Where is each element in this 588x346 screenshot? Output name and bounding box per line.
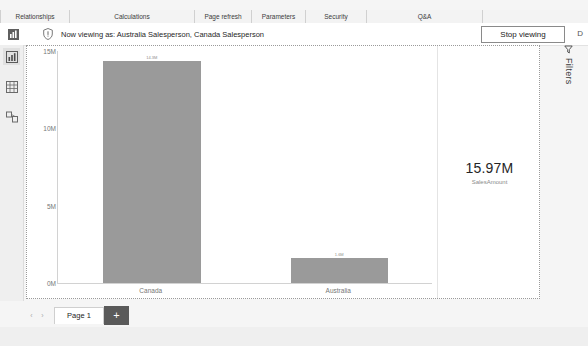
page-prev-button[interactable]: ‹	[26, 307, 37, 323]
add-page-button[interactable]: +	[104, 306, 129, 325]
view-as-banner: Now viewing as: Australia Salesperson, C…	[0, 23, 588, 46]
ribbon-group-page-refresh[interactable]: Page refresh	[195, 10, 252, 23]
bar-australia[interactable]	[291, 258, 389, 283]
page-next-button[interactable]: ›	[37, 307, 48, 323]
x-axis-tick-label: Australia	[326, 287, 351, 294]
bar-chart-visual[interactable]: 0M5M10M15M14.3M1.6M CanadaAustralia	[27, 46, 438, 298]
page-tab-bar: ‹ › Page 1 +	[26, 303, 540, 327]
filters-pane-collapsed[interactable]: Filters	[561, 45, 576, 165]
bar-value-label: 14.3M	[146, 55, 157, 60]
relationships-icon	[6, 111, 18, 123]
view-as-message: Now viewing as: Australia Salesperson, C…	[61, 30, 264, 39]
ribbon-group-parameters[interactable]: Parameters	[252, 10, 306, 23]
sidebar-item-model-view[interactable]	[3, 108, 20, 125]
ribbon-group-strip: RelationshipsCalculationsPage refreshPar…	[0, 10, 588, 24]
bar-chart-icon	[6, 51, 18, 63]
y-axis-tick-label: 5M	[47, 202, 56, 209]
sidebar-item-data-view[interactable]	[3, 78, 20, 95]
ribbon-group-calculations[interactable]: Calculations	[70, 10, 195, 23]
power-bi-desktop-window: RelationshipsCalculationsPage refreshPar…	[0, 0, 588, 346]
chart-x-axis: CanadaAustralia	[57, 283, 432, 298]
page-tab-page-1[interactable]: Page 1	[54, 307, 104, 324]
y-axis-tick-label: 0M	[47, 280, 56, 287]
sidebar-item-report-view[interactable]	[3, 48, 20, 65]
x-axis-tick-label: Canada	[139, 287, 162, 294]
card-visual[interactable]: 15.97M SalesAmount	[439, 46, 540, 298]
y-axis-tick-label: 15M	[43, 48, 56, 55]
card-label: SalesAmount	[472, 179, 508, 185]
bar-value-label: 1.6M	[335, 252, 344, 257]
view-switcher-rail	[0, 45, 24, 301]
card-value: 15.97M	[466, 160, 514, 176]
ribbon-group-q-a[interactable]: Q&A	[367, 10, 483, 23]
shield-warning-icon	[40, 23, 56, 45]
bar-canada[interactable]	[103, 61, 201, 283]
ribbon-group-relationships[interactable]: Relationships	[0, 10, 70, 23]
report-canvas[interactable]: 0M5M10M15M14.3M1.6M CanadaAustralia 15.9…	[26, 45, 540, 299]
y-axis-tick-label: 10M	[43, 125, 56, 132]
filters-pane-label: Filters	[564, 58, 574, 85]
status-bar	[0, 327, 588, 346]
filter-funnel-icon	[564, 45, 573, 54]
clipped-pane-char: D	[577, 29, 583, 38]
ribbon-group-security[interactable]: Security	[306, 10, 367, 23]
table-grid-icon	[6, 81, 18, 93]
chart-plot-area: 0M5M10M15M14.3M1.6M	[57, 51, 432, 283]
stop-viewing-button[interactable]: Stop viewing	[481, 26, 565, 43]
report-view-icon	[0, 23, 26, 45]
